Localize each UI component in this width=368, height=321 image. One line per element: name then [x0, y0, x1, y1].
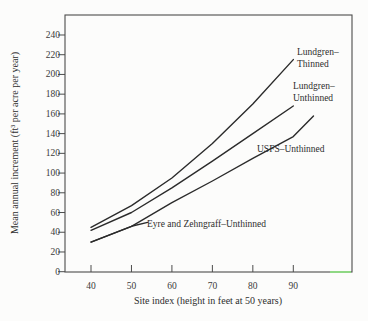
series-label-line: Lundgren–	[293, 81, 335, 93]
series-label-lundgren-unthinned: Lundgren– Unthinned	[293, 81, 335, 104]
x-tick-label: 70	[200, 281, 224, 291]
series-label-line: Lundgren–	[297, 47, 339, 59]
y-tick-label: 20	[32, 247, 60, 257]
y-tick-label: 0	[32, 267, 60, 277]
x-tick-label: 90	[281, 281, 305, 291]
series-label-line: Thinned	[297, 59, 339, 71]
y-tick-label: 220	[32, 50, 60, 60]
y-tick-label: 240	[32, 30, 60, 40]
series-label-usfs-unthinned: USFS–Unthinned	[257, 144, 325, 156]
y-tick-label: 80	[32, 188, 60, 198]
y-tick-label: 160	[32, 109, 60, 119]
x-tick-label: 40	[79, 281, 103, 291]
x-axis-title: Site index (height in feet at 50 years)	[58, 295, 358, 306]
x-tick-label: 50	[119, 281, 143, 291]
y-tick-label: 60	[32, 208, 60, 218]
series-line-eyre-and-zehngraff-unthinned	[91, 222, 148, 242]
y-axis-title: Mean annual increment (ft³ per acre per …	[9, 18, 23, 268]
series-label-lundgren-thinned: Lundgren– Thinned	[297, 47, 339, 70]
y-tick-label: 120	[32, 148, 60, 158]
chart-figure: 4050607080900204060801001201401601802002…	[0, 0, 368, 321]
x-tick-label: 80	[241, 281, 265, 291]
x-tick-label: 60	[160, 281, 184, 291]
y-tick-label: 200	[32, 69, 60, 79]
series-label-eyre-zehngraff-unthinned: Eyre and Zehngraff–Unthinned	[147, 219, 266, 231]
y-tick-label: 100	[32, 168, 60, 178]
y-tick-label: 140	[32, 129, 60, 139]
y-tick-label: 40	[32, 227, 60, 237]
series-label-line: Unthinned	[293, 93, 335, 105]
y-tick-label: 180	[32, 89, 60, 99]
